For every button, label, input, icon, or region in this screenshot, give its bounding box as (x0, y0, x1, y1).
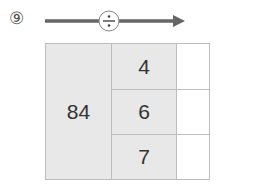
dividend-cell: 84 (46, 44, 112, 179)
answer-cell[interactable] (177, 89, 209, 134)
divisor-cell: 7 (112, 134, 177, 179)
answer-cell[interactable] (177, 44, 209, 89)
division-table: 84 4 6 7 (45, 43, 210, 180)
divide-arrow-icon (45, 10, 185, 32)
divisor-cell: 6 (112, 89, 177, 134)
divisor-cell: 4 (112, 44, 177, 89)
problem-number: ⑨ (9, 8, 24, 29)
answer-cell[interactable] (177, 134, 209, 179)
